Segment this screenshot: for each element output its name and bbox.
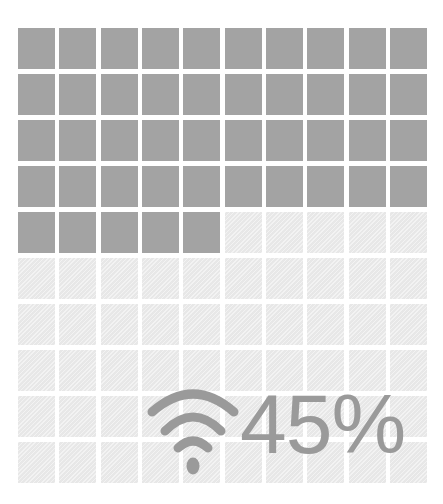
waffle-cell-filled xyxy=(390,28,427,69)
percent-label: 45% xyxy=(240,382,405,466)
waffle-cell-empty xyxy=(101,442,138,483)
waffle-cell-filled xyxy=(349,74,386,115)
signal-readout: 45% xyxy=(146,380,405,476)
waffle-cell-empty xyxy=(18,442,55,483)
waffle-cell-filled xyxy=(18,120,55,161)
waffle-cell-empty xyxy=(183,304,220,345)
waffle-cell-filled xyxy=(183,74,220,115)
waffle-cell-empty xyxy=(225,212,262,253)
waffle-cell-filled xyxy=(307,166,344,207)
waffle-cell-empty xyxy=(18,396,55,437)
waffle-cell-filled xyxy=(18,212,55,253)
waffle-cell-empty xyxy=(59,304,96,345)
waffle-cell-filled xyxy=(225,74,262,115)
waffle-cell-empty xyxy=(101,350,138,391)
waffle-cell-filled xyxy=(307,74,344,115)
waffle-cell-empty xyxy=(101,396,138,437)
waffle-cell-empty xyxy=(390,304,427,345)
waffle-cell-filled xyxy=(183,166,220,207)
waffle-cell-filled xyxy=(390,120,427,161)
waffle-cell-empty xyxy=(225,304,262,345)
waffle-cell-filled xyxy=(183,28,220,69)
waffle-cell-filled xyxy=(59,74,96,115)
waffle-cell-empty xyxy=(390,258,427,299)
waffle-cell-filled xyxy=(225,28,262,69)
waffle-cell-filled xyxy=(225,120,262,161)
waffle-cell-empty xyxy=(307,304,344,345)
waffle-cell-filled xyxy=(349,120,386,161)
waffle-cell-empty xyxy=(183,258,220,299)
waffle-cell-empty xyxy=(349,304,386,345)
waffle-cell-empty xyxy=(307,212,344,253)
waffle-cell-empty xyxy=(101,258,138,299)
waffle-cell-filled xyxy=(390,74,427,115)
waffle-cell-filled xyxy=(266,166,303,207)
waffle-cell-empty xyxy=(349,258,386,299)
waffle-cell-filled xyxy=(142,120,179,161)
waffle-cell-empty xyxy=(101,304,138,345)
waffle-cell-filled xyxy=(142,166,179,207)
waffle-cell-filled xyxy=(266,28,303,69)
waffle-cell-filled xyxy=(59,28,96,69)
waffle-cell-empty xyxy=(59,258,96,299)
waffle-cell-filled xyxy=(183,212,220,253)
waffle-cell-empty xyxy=(142,304,179,345)
waffle-cell-filled xyxy=(18,74,55,115)
waffle-cell-filled xyxy=(18,28,55,69)
waffle-cell-filled xyxy=(101,212,138,253)
waffle-cell-filled xyxy=(59,212,96,253)
waffle-cell-filled xyxy=(307,28,344,69)
waffle-cell-filled xyxy=(349,28,386,69)
waffle-cell-empty xyxy=(142,258,179,299)
waffle-cell-filled xyxy=(59,166,96,207)
waffle-cell-filled xyxy=(142,28,179,69)
waffle-cell-filled xyxy=(225,166,262,207)
waffle-cell-empty xyxy=(18,350,55,391)
waffle-cell-filled xyxy=(142,74,179,115)
waffle-cell-filled xyxy=(101,74,138,115)
waffle-cell-filled xyxy=(266,74,303,115)
waffle-cell-filled xyxy=(307,120,344,161)
waffle-cell-filled xyxy=(349,166,386,207)
waffle-cell-empty xyxy=(59,396,96,437)
waffle-cell-empty xyxy=(266,258,303,299)
waffle-cell-empty xyxy=(349,212,386,253)
waffle-cell-empty xyxy=(266,212,303,253)
waffle-cell-filled xyxy=(101,120,138,161)
waffle-cell-filled xyxy=(101,166,138,207)
waffle-cell-filled xyxy=(101,28,138,69)
waffle-cell-empty xyxy=(307,258,344,299)
waffle-cell-empty xyxy=(266,304,303,345)
waffle-cell-filled xyxy=(142,212,179,253)
waffle-cell-empty xyxy=(225,258,262,299)
waffle-cell-filled xyxy=(390,166,427,207)
waffle-cell-empty xyxy=(59,442,96,483)
waffle-cell-filled xyxy=(59,120,96,161)
waffle-cell-filled xyxy=(266,120,303,161)
waffle-cell-empty xyxy=(18,304,55,345)
wifi-icon xyxy=(146,382,240,476)
waffle-cell-filled xyxy=(18,166,55,207)
waffle-cell-empty xyxy=(390,212,427,253)
waffle-cell-filled xyxy=(183,120,220,161)
waffle-cell-empty xyxy=(18,258,55,299)
waffle-cell-empty xyxy=(59,350,96,391)
